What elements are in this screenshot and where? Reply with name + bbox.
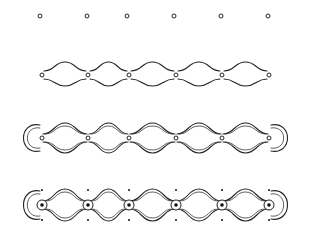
left-end-loop-inner xyxy=(27,128,40,148)
lower-dot xyxy=(87,219,89,221)
upper-dot xyxy=(128,189,130,191)
point-circle xyxy=(85,14,89,18)
point-circle xyxy=(125,14,129,18)
lower-dot xyxy=(41,219,43,221)
ring-center-dot xyxy=(40,203,44,207)
ring-center-dot xyxy=(220,203,224,207)
right-end-loop xyxy=(271,125,288,152)
lower-dot xyxy=(128,219,130,221)
lower-dot xyxy=(221,219,223,221)
point-circle xyxy=(220,73,224,77)
upper-wave xyxy=(44,62,267,71)
ring-center-dot xyxy=(267,203,271,207)
step-1-dot-row xyxy=(38,14,270,18)
ring-center-dot xyxy=(174,203,178,207)
point-circle xyxy=(174,136,178,140)
lower-wave xyxy=(44,79,267,86)
step-3-double-wave-row xyxy=(24,123,288,153)
point-circle xyxy=(219,14,223,18)
upper-dot xyxy=(268,189,270,191)
upper-dot xyxy=(221,189,223,191)
point-circle xyxy=(220,136,224,140)
right-end-loop-inner xyxy=(271,128,284,148)
step-4-ringed-chain-row xyxy=(24,189,288,221)
point-circle xyxy=(267,136,271,140)
point-circle xyxy=(267,73,271,77)
upper-dot xyxy=(87,189,89,191)
point-circle xyxy=(266,14,270,18)
ring-center-dot xyxy=(127,203,131,207)
point-circle xyxy=(172,14,176,18)
point-circle xyxy=(127,136,131,140)
point-circle xyxy=(174,73,178,77)
lower-dot xyxy=(268,219,270,221)
left-end-loop xyxy=(24,125,41,152)
lower-wave-outer xyxy=(43,209,268,221)
point-circle xyxy=(38,14,42,18)
point-circle xyxy=(40,73,44,77)
point-circle xyxy=(86,136,90,140)
point-circle xyxy=(127,73,131,77)
upper-dot xyxy=(41,189,43,191)
upper-wave-outer xyxy=(43,189,268,201)
point-circle xyxy=(86,73,90,77)
upper-dot xyxy=(175,189,177,191)
lower-wave-outer xyxy=(43,142,268,153)
ring-center-dot xyxy=(86,203,90,207)
point-circle xyxy=(40,136,44,140)
step-2-single-wave-row xyxy=(40,62,271,86)
pattern-diagram xyxy=(0,0,314,239)
lower-dot xyxy=(175,219,177,221)
upper-wave-outer xyxy=(43,123,268,134)
